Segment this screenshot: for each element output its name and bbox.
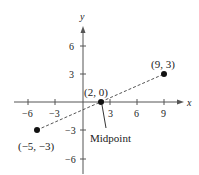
- y-tick-label: −6: [65, 154, 76, 165]
- midpoint-annotation: Midpoint: [90, 132, 131, 144]
- x-tick-label: 3: [108, 108, 113, 119]
- x-tick-label: −6: [22, 108, 33, 119]
- y-axis-arrow-icon: [81, 26, 86, 33]
- y-axis-label: y: [79, 11, 85, 22]
- x-tick-labels: −6 −3 3 6 9: [22, 108, 166, 119]
- x-axis-arrow-icon: [177, 100, 184, 105]
- midpoint-leader-line: [102, 105, 106, 128]
- point-label-a: (−5, −3): [18, 140, 55, 153]
- x-axis-label: x: [186, 97, 192, 108]
- y-tick-label: 3: [69, 69, 74, 80]
- y-tick-label: 6: [69, 41, 74, 52]
- point-endpoint-a: [34, 127, 40, 133]
- x-tick-label: 6: [134, 108, 139, 119]
- x-tick-label: 9: [161, 108, 166, 119]
- point-midpoint: [98, 99, 104, 105]
- x-tick-label: −3: [49, 108, 60, 119]
- y-tick-label: −3: [65, 125, 76, 136]
- point-endpoint-b: [161, 71, 167, 77]
- y-tick-labels: 6 3 −3 −6: [65, 41, 76, 165]
- midpoint-chart: x y −6 −3 3 6 9 6 3 −3 −6 (−5, −3): [0, 0, 199, 175]
- point-label-midpoint: (2, 0): [84, 86, 108, 99]
- point-label-b: (9, 3): [151, 58, 175, 71]
